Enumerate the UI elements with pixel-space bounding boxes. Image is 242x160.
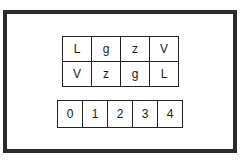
letter-grid-row: V z g L [63,62,179,87]
letter-grid: L g z V V z g L [62,36,179,87]
letter-cell: L [63,37,92,62]
letter-cell: V [63,62,92,87]
number-row-cells: 0 1 2 3 4 [58,101,183,128]
letter-cell: z [121,37,150,62]
number-cell: 4 [158,101,183,128]
number-cell: 2 [108,101,133,128]
letter-cell: V [150,37,179,62]
number-cell: 1 [83,101,108,128]
letter-grid-row: L g z V [63,37,179,62]
letter-cell: g [121,62,150,87]
number-cell: 0 [58,101,83,128]
letter-cell: g [92,37,121,62]
number-row: 0 1 2 3 4 [57,100,183,128]
letter-cell: L [150,62,179,87]
letter-cell: z [92,62,121,87]
number-cell: 3 [133,101,158,128]
